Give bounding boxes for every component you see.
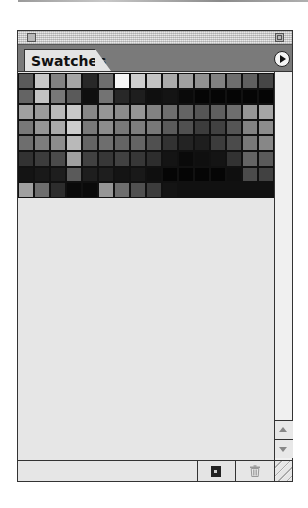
swatch[interactable] [82, 167, 98, 183]
swatch[interactable] [50, 89, 66, 105]
swatch[interactable] [98, 120, 114, 136]
swatch[interactable] [194, 135, 210, 151]
swatch[interactable] [194, 167, 210, 183]
swatch[interactable] [98, 135, 114, 151]
swatch[interactable] [66, 104, 82, 120]
swatch[interactable] [18, 89, 34, 105]
swatch[interactable] [162, 151, 178, 167]
scroll-down-arrow-icon[interactable] [275, 439, 293, 458]
swatch[interactable] [114, 167, 130, 183]
swatch[interactable] [114, 151, 130, 167]
swatch[interactable] [34, 151, 50, 167]
swatch[interactable] [258, 135, 274, 151]
swatch[interactable] [242, 73, 258, 89]
swatch[interactable] [50, 120, 66, 136]
swatch[interactable] [178, 135, 194, 151]
swatch[interactable] [146, 104, 162, 120]
swatch[interactable] [18, 167, 34, 183]
swatch[interactable] [18, 135, 34, 151]
swatch[interactable] [66, 120, 82, 136]
panel-menu-arrow-icon[interactable] [274, 51, 290, 67]
swatch[interactable] [258, 167, 274, 183]
swatch[interactable] [242, 167, 258, 183]
delete-swatch-button[interactable] [235, 461, 274, 481]
swatch[interactable] [242, 89, 258, 105]
zoom-box-icon[interactable] [275, 33, 284, 42]
swatch[interactable] [18, 182, 34, 198]
swatch[interactable] [210, 135, 226, 151]
swatch[interactable] [194, 73, 210, 89]
tab-swatches[interactable]: Swatches [24, 49, 96, 71]
swatch[interactable] [114, 89, 130, 105]
swatch[interactable] [18, 73, 34, 89]
swatch[interactable] [242, 151, 258, 167]
swatch[interactable] [50, 182, 66, 198]
swatch[interactable] [82, 120, 98, 136]
swatch[interactable] [146, 182, 162, 198]
swatch[interactable] [178, 73, 194, 89]
swatch[interactable] [210, 151, 226, 167]
swatch[interactable] [50, 104, 66, 120]
swatch[interactable] [162, 89, 178, 105]
swatch[interactable] [34, 73, 50, 89]
swatch[interactable] [146, 151, 162, 167]
swatch[interactable] [162, 73, 178, 89]
swatch[interactable] [258, 120, 274, 136]
swatch[interactable] [242, 104, 258, 120]
swatch[interactable] [98, 182, 114, 198]
swatch[interactable] [130, 135, 146, 151]
swatch[interactable] [226, 167, 242, 183]
panel-title-bar[interactable] [18, 31, 292, 45]
swatch[interactable] [114, 104, 130, 120]
swatch[interactable] [258, 73, 274, 89]
swatch[interactable] [210, 104, 226, 120]
swatch[interactable] [146, 120, 162, 136]
swatch[interactable] [98, 167, 114, 183]
swatch[interactable] [50, 135, 66, 151]
swatch[interactable] [34, 135, 50, 151]
swatch[interactable] [258, 89, 274, 105]
swatch[interactable] [82, 135, 98, 151]
swatch[interactable] [162, 120, 178, 136]
new-swatch-button[interactable] [197, 461, 235, 481]
swatch[interactable] [82, 151, 98, 167]
scroll-up-arrow-icon[interactable] [275, 420, 293, 439]
swatch[interactable] [194, 104, 210, 120]
swatch[interactable] [146, 89, 162, 105]
swatch[interactable] [242, 120, 258, 136]
swatch[interactable] [50, 167, 66, 183]
swatch[interactable] [50, 151, 66, 167]
swatch[interactable] [98, 73, 114, 89]
swatch[interactable] [34, 167, 50, 183]
swatch[interactable] [178, 89, 194, 105]
swatch[interactable] [130, 151, 146, 167]
swatch[interactable] [226, 73, 242, 89]
swatch[interactable] [130, 89, 146, 105]
swatch[interactable] [226, 135, 242, 151]
swatch[interactable] [66, 73, 82, 89]
swatch[interactable] [50, 73, 66, 89]
swatch[interactable] [114, 135, 130, 151]
swatch[interactable] [18, 151, 34, 167]
swatch[interactable] [82, 73, 98, 89]
swatch[interactable] [162, 167, 178, 183]
swatch[interactable] [178, 151, 194, 167]
swatch[interactable] [66, 135, 82, 151]
swatch[interactable] [18, 120, 34, 136]
swatch[interactable] [194, 89, 210, 105]
swatch[interactable] [114, 182, 130, 198]
swatch[interactable] [210, 89, 226, 105]
swatch[interactable] [226, 89, 242, 105]
swatch[interactable] [114, 120, 130, 136]
swatch[interactable] [66, 151, 82, 167]
swatch[interactable] [194, 120, 210, 136]
swatch[interactable] [34, 120, 50, 136]
swatch[interactable] [18, 104, 34, 120]
swatch[interactable] [130, 182, 146, 198]
swatch[interactable] [130, 104, 146, 120]
swatch[interactable] [66, 167, 82, 183]
swatch[interactable] [98, 151, 114, 167]
swatch[interactable] [178, 120, 194, 136]
swatch[interactable] [34, 182, 50, 198]
swatch[interactable] [178, 104, 194, 120]
